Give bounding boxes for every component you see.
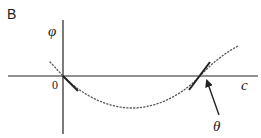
theta-label: θ [213, 119, 220, 134]
dotted-curve [50, 46, 238, 108]
tangent-at-origin [63, 76, 78, 91]
y-axis-label-phi: φ [48, 24, 56, 39]
diagram-panel-b: B φ 0 c θ [0, 0, 261, 138]
origin-label: 0 [52, 79, 58, 91]
theta-arrow [207, 81, 219, 115]
x-axis-label-c: c [241, 78, 248, 93]
panel-label: B [7, 7, 16, 21]
diagram-graphics [0, 0, 261, 138]
